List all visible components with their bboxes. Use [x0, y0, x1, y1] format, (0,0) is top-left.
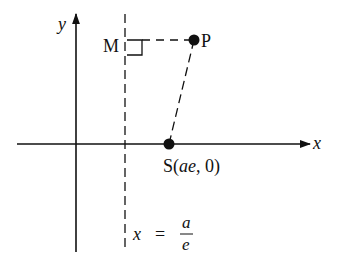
y-axis-label: y [56, 14, 66, 34]
point-s-label: S(ae, 0) [163, 156, 220, 177]
directrix-equation: x = a e [132, 213, 193, 254]
focus-directrix-diagram: x y P M S(ae, 0) x = a e [0, 0, 340, 273]
directrix-lhs: x [132, 224, 141, 244]
directrix-denominator: e [182, 235, 190, 254]
directrix-numerator: a [182, 213, 191, 232]
point-p [189, 35, 200, 46]
ps-segment [169, 40, 194, 144]
x-axis-label: x [312, 133, 321, 153]
point-p-label: P [201, 31, 211, 51]
point-s [164, 139, 175, 150]
point-m-label: M [103, 36, 119, 56]
directrix-equals: = [155, 224, 165, 244]
right-angle-marker [127, 40, 142, 55]
